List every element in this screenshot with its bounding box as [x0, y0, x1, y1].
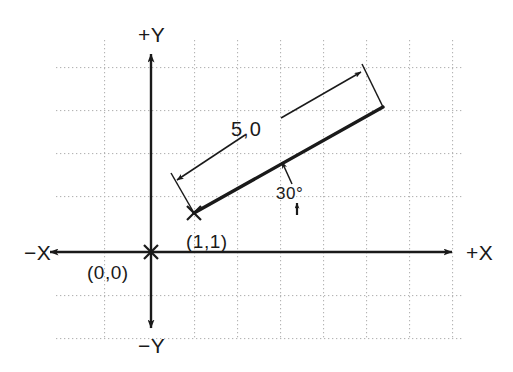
dimension-line-left	[177, 135, 245, 180]
gridline-horizontal	[55, 196, 463, 197]
angle-leader-line	[282, 162, 292, 184]
axis-label-positive-y: +Y	[138, 23, 165, 46]
gridline-vertical	[323, 40, 324, 340]
main-line-segment	[187, 107, 383, 220]
length-dimension-label: 5,0	[231, 118, 262, 140]
gridline-vertical	[366, 40, 367, 340]
extension-line-start	[171, 173, 194, 213]
gridline-horizontal	[55, 110, 463, 111]
gridline-vertical	[409, 40, 410, 340]
gridline-vertical	[194, 40, 195, 340]
gridline-vertical	[452, 40, 453, 340]
angle-dimension-label: 30°	[276, 184, 303, 203]
gridline-horizontal	[55, 338, 463, 339]
background-grid	[55, 40, 463, 340]
extension-line-end	[362, 64, 383, 107]
axes	[50, 54, 452, 328]
coordinate-diagram: +Y −Y +X −X (0,0) (1,1) 5,0 30°	[0, 0, 513, 372]
origin-coordinate-label: (0,0)	[87, 262, 129, 283]
gridline-vertical	[104, 40, 105, 340]
gridline-horizontal	[55, 295, 463, 296]
axis-label-positive-x: +X	[466, 241, 493, 264]
gridline-horizontal	[55, 67, 463, 68]
diagram-canvas: +Y −Y +X −X (0,0) (1,1) 5,0 30°	[0, 0, 513, 372]
axis-label-negative-y: −Y	[138, 334, 165, 357]
segment-start-coordinate-label: (1,1)	[186, 231, 228, 252]
gridline-horizontal	[55, 153, 463, 154]
axis-label-negative-x: −X	[24, 241, 51, 264]
